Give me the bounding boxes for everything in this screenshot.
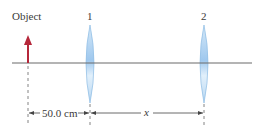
lens-2 [200,25,208,103]
distance-50cm-label: 50.0 cm [42,108,77,119]
object-arrow-icon [24,35,32,63]
lens-1 [86,25,94,103]
distance-x-label: x [144,107,149,118]
lens-2-label: 2 [201,11,207,22]
object-label: Object [12,11,41,22]
lens-1-label: 1 [87,11,93,22]
